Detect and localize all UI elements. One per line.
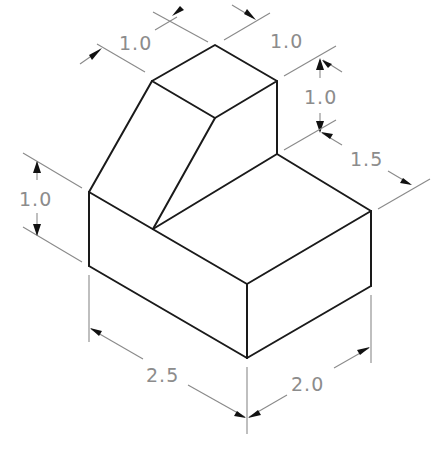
isometric-drawing: 1.0 1.0 1.0 1.5 1.0	[0, 0, 438, 467]
dimension-base-width: 2.0	[248, 295, 371, 418]
dim-label-step-depth: 1.5	[350, 148, 383, 170]
base-bottom-left-edge	[89, 266, 247, 358]
dim-label-step-height: 1.0	[304, 86, 337, 108]
step-inner-edge	[153, 154, 277, 229]
arrow-head-icon	[244, 9, 256, 20]
dimension-base-height: 1.0	[19, 153, 82, 262]
base-top-right-edge	[247, 211, 371, 284]
upper-top-face-edge	[152, 45, 277, 118]
arrow-head-icon	[89, 48, 102, 60]
dim-label-base-width: 2.0	[291, 373, 324, 395]
dimension-top-left-width: 1.0	[80, 6, 208, 72]
dimension-base-length: 2.5	[89, 275, 247, 434]
dimension-step-depth: 1.5	[321, 132, 430, 209]
base-bottom-right-edge	[247, 286, 371, 358]
dim-label-top-left: 1.0	[119, 32, 152, 54]
dim-label-base-height: 1.0	[19, 188, 52, 210]
base-top-left-edge	[89, 192, 247, 284]
arrow-head-icon	[322, 60, 332, 68]
dim-label-base-length: 2.5	[146, 364, 179, 386]
dimension-step-height: 1.0	[284, 58, 342, 150]
dim-label-top-right: 1.0	[270, 30, 303, 52]
slope-left-edge	[89, 81, 152, 192]
slope-inner-edge	[153, 118, 215, 229]
arrow-head-icon	[316, 58, 324, 70]
arrow-head-icon	[172, 6, 184, 16]
